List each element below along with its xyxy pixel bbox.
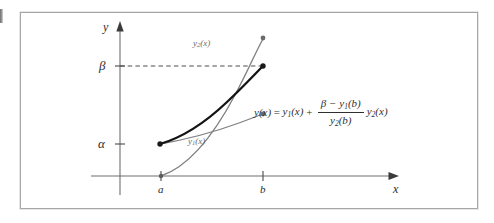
equation-lhs: y(x) [254, 106, 271, 118]
curve-y2-endpoint-dot [261, 36, 266, 41]
curve-label-y2-tail: (x) [200, 38, 210, 48]
curve-y-endpoint-dot [260, 63, 265, 68]
curve-label-y1: y1(x) [188, 137, 205, 147]
equation-numerator-beta: β [321, 97, 326, 109]
x-axis-label: x [393, 183, 398, 195]
curve-label-y2: y2(x) [193, 39, 210, 49]
equation-factor-tail: (x) [375, 105, 387, 117]
curve-y2 [161, 39, 263, 176]
figure-frame: y x β α a b y2(x) y1(x) y(x) = y1(x) + β… [20, 12, 478, 209]
equation-fraction-numerator: β − y1(b) [318, 97, 364, 112]
equation-numerator-minus: − [329, 97, 336, 109]
y-axis-label: y [103, 21, 108, 33]
equation-numerator-tail: (b) [348, 97, 361, 109]
figure-page: y x β α a b y2(x) y1(x) y(x) = y1(x) + β… [0, 0, 494, 223]
equation-fraction: β − y1(b) y2(b) [318, 97, 364, 127]
equation-denominator-tail: (b) [339, 114, 352, 126]
curve-label-y1-tail: (x) [195, 136, 205, 146]
equation-term1: y1(x) [283, 105, 304, 119]
page-edge-artifact [0, 9, 3, 23]
equation-factor: y2(x) [367, 105, 388, 119]
y-tick-label-beta: β [99, 59, 105, 72]
equation-annotation: y(x) = y1(x) + β − y1(b) y2(b) y2(x) [254, 97, 390, 127]
y-axis-arrowhead [116, 21, 123, 32]
x-tick-label-a: a [158, 184, 164, 195]
x-axis-arrowhead [389, 172, 400, 180]
x-tick-label-b: b [260, 184, 266, 195]
equation-term1-tail: (x) [291, 105, 303, 117]
equation-plus: + [305, 106, 312, 118]
curve-y-start-dot [157, 141, 162, 146]
y-tick-label-alpha: α [98, 137, 105, 150]
diagram-canvas [21, 13, 477, 208]
equation-equals: = [273, 106, 280, 118]
curve-y2-start-dot [159, 174, 163, 178]
equation-fraction-denominator: y2(b) [327, 113, 354, 128]
